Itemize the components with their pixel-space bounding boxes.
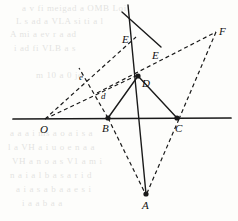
point-label-E2: E: [152, 50, 159, 61]
point-label-d: d: [101, 92, 106, 101]
point-label-F: F: [219, 26, 226, 37]
dashed-E2-to-F: [97, 32, 216, 93]
point-label-E: E: [122, 34, 129, 45]
point-label-O: O: [40, 124, 48, 135]
geometry-figure-canvas: a v fi meigad a OMB LoiL s ad a VLA si t…: [0, 0, 238, 221]
dashed-F-to-C: [179, 32, 216, 119]
dashed-O-to-E-upper: [45, 37, 136, 119]
dashed-lines-group: [45, 32, 216, 193]
point-marker-B: [105, 115, 110, 120]
geometry-svg: [0, 0, 238, 221]
point-marker-A: [143, 191, 148, 196]
baseline-O-C-extended: [13, 118, 231, 119]
point-label-B: B: [102, 123, 109, 134]
point-label-A: A: [142, 200, 149, 211]
dashed-O-to-D: [45, 74, 140, 119]
point-marker-D: [135, 73, 140, 78]
line-A-through-D-up: [128, 5, 146, 194]
point-label-C: C: [175, 123, 182, 134]
point-marker-C: [174, 115, 179, 120]
point-label-e: e: [79, 73, 83, 82]
point-markers-group: [105, 73, 179, 196]
point-label-D: D: [142, 78, 150, 89]
